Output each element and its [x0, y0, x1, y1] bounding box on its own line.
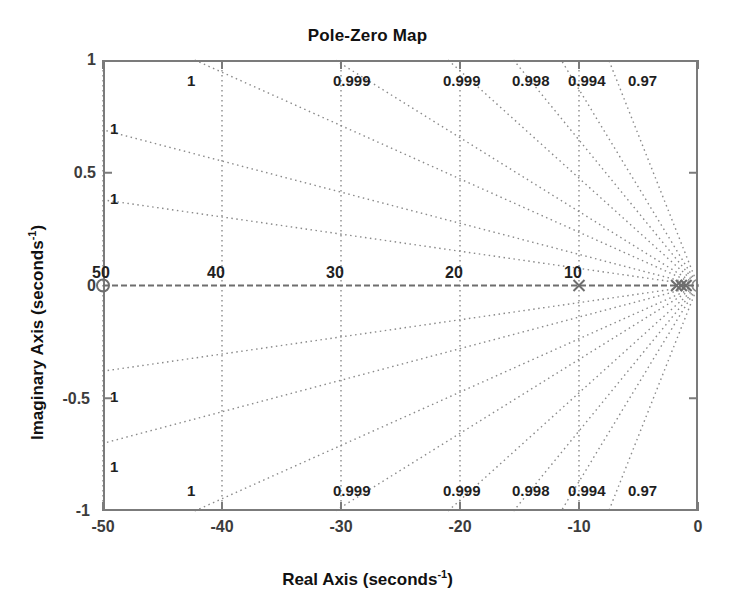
- damping-ratio-label-bottom: 0.999: [443, 482, 481, 499]
- ytick-label-0p5: 0.5: [36, 164, 96, 182]
- damping-ratio-label-left: 1: [110, 120, 118, 137]
- xtick-label-neg30: -30: [306, 518, 376, 536]
- y-axis-title-text: Imaginary Axis (seconds: [28, 240, 47, 440]
- x-axis-title-exponent: -1: [437, 568, 447, 580]
- y-axis-title-exponent: -1: [26, 231, 38, 241]
- damping-ratio-label-top: 1: [187, 72, 195, 89]
- damping-ratio-label-bottom: 0.999: [333, 482, 371, 499]
- frequency-label: 20: [445, 264, 463, 282]
- xtick-label-0: 0: [663, 518, 733, 536]
- damping-ratio-label-bottom: 1: [187, 482, 195, 499]
- y-axis-title: Imaginary Axis (seconds-1): [26, 225, 48, 440]
- damping-ratio-label-left: 1: [110, 388, 118, 405]
- damping-ratio-label-top: 0.998: [512, 72, 550, 89]
- x-axis-title: Real Axis (seconds-1): [0, 568, 735, 590]
- frequency-label: 30: [326, 264, 344, 282]
- damping-ratio-label-bottom: 0.998: [512, 482, 550, 499]
- x-axis-title-text: Real Axis (seconds: [282, 570, 437, 589]
- ytick-label-1: 1: [36, 51, 96, 69]
- damping-ratio-label-left: 1: [110, 190, 118, 207]
- damping-ratio-label-bottom: 0.97: [628, 482, 657, 499]
- damping-ratio-label-top: 0.999: [443, 72, 481, 89]
- frequency-label: 40: [207, 264, 225, 282]
- frequency-label: 50: [92, 264, 110, 282]
- y-axis-title-paren: ): [28, 225, 47, 231]
- xtick-label-neg20: -20: [425, 518, 495, 536]
- frequency-label: 10: [564, 264, 582, 282]
- x-axis-title-paren: ): [447, 570, 453, 589]
- damping-ratio-label-top: 0.999: [333, 72, 371, 89]
- xtick-label-neg10: -10: [544, 518, 614, 536]
- xtick-label-neg50: -50: [68, 518, 138, 536]
- damping-ratio-label-left: 1: [110, 458, 118, 475]
- damping-ratio-label-top: 0.97: [628, 72, 657, 89]
- xtick-label-neg40: -40: [187, 518, 257, 536]
- damping-ratio-label-top: 0.994: [568, 72, 606, 89]
- damping-ratio-label-bottom: 0.994: [568, 482, 606, 499]
- pole-zero-map-figure: Pole-Zero Map 1 0.5 0 -0.5 -1 -50 -40 -3…: [0, 0, 735, 612]
